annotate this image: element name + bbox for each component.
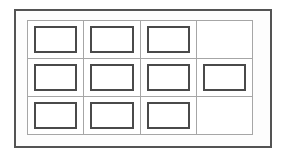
cell-r2c4	[197, 59, 253, 97]
cell-r3c3	[141, 97, 197, 135]
cell-r1c4	[197, 21, 253, 59]
panel-insert-r2c4	[203, 64, 246, 91]
cell-r2c1	[28, 59, 84, 97]
panel-insert-r1c3	[147, 26, 190, 53]
cell-r3c1	[28, 97, 84, 135]
cell-r3c2	[84, 97, 140, 135]
cell-r2c3	[141, 59, 197, 97]
cell-r1c1	[28, 21, 84, 59]
cell-r3c4	[197, 97, 253, 135]
panel-insert-r3c3	[147, 102, 190, 129]
cell-r2c2	[84, 59, 140, 97]
diagram-canvas	[0, 0, 287, 157]
outer-frame	[14, 9, 272, 148]
panel-insert-r2c2	[90, 64, 133, 91]
panel-insert-r1c1	[34, 26, 77, 53]
panel-insert-r3c2	[90, 102, 133, 129]
frame-inset-area	[16, 11, 270, 146]
cell-r1c2	[84, 21, 140, 59]
cell-r1c3	[141, 21, 197, 59]
panel-grid	[27, 20, 253, 135]
panel-insert-r2c3	[147, 64, 190, 91]
panel-insert-r3c1	[34, 102, 77, 129]
panel-insert-r2c1	[34, 64, 77, 91]
panel-insert-r1c2	[90, 26, 133, 53]
